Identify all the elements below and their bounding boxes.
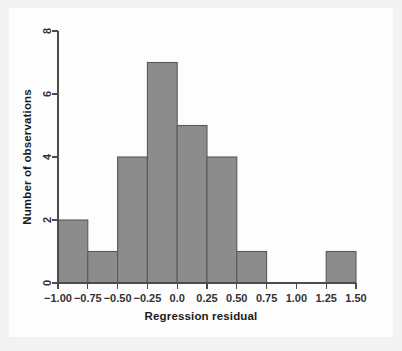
x-tick-label: 0.50 bbox=[226, 292, 247, 304]
histogram-bar bbox=[207, 157, 237, 283]
histogram-bar bbox=[237, 252, 267, 284]
x-tick-label: −0.50 bbox=[104, 292, 132, 304]
y-tick-labels: 02468 bbox=[41, 28, 53, 286]
y-tick-label: 8 bbox=[41, 28, 53, 34]
x-tick-label: 0.0 bbox=[170, 292, 185, 304]
bars-layer bbox=[58, 63, 356, 284]
y-tick-label: 2 bbox=[41, 217, 53, 223]
histogram-bar bbox=[177, 126, 207, 284]
x-tick-label: −0.75 bbox=[74, 292, 102, 304]
x-tick-label: −0.25 bbox=[133, 292, 161, 304]
x-tick-label: −1.00 bbox=[44, 292, 72, 304]
x-tick-labels: −1.00−0.75−0.50−0.250.00.250.500.751.001… bbox=[44, 292, 367, 304]
y-tick-label: 4 bbox=[41, 153, 53, 160]
histogram-bar bbox=[147, 63, 177, 284]
x-tick-label: 1.00 bbox=[286, 292, 307, 304]
x-axis bbox=[58, 283, 356, 289]
y-axis-title: Number of observations bbox=[21, 89, 33, 225]
histogram-bar bbox=[326, 252, 356, 284]
x-tick-label: 0.25 bbox=[196, 292, 217, 304]
histogram-bar bbox=[88, 252, 118, 284]
x-tick-label: 0.75 bbox=[256, 292, 277, 304]
histogram-figure: −1.00−0.75−0.50−0.250.00.250.500.751.001… bbox=[0, 0, 402, 351]
x-tick-label: 1.25 bbox=[315, 292, 336, 304]
x-axis-title: Regression residual bbox=[145, 310, 258, 322]
histogram-bar bbox=[118, 157, 148, 283]
y-tick-label: 6 bbox=[41, 91, 53, 97]
y-tick-label: 0 bbox=[41, 280, 53, 286]
x-tick-label: 1.50 bbox=[345, 292, 366, 304]
histogram-bar bbox=[58, 220, 88, 283]
regression-residual-histogram-plot: −1.00−0.75−0.50−0.250.00.250.500.751.001… bbox=[0, 0, 402, 351]
